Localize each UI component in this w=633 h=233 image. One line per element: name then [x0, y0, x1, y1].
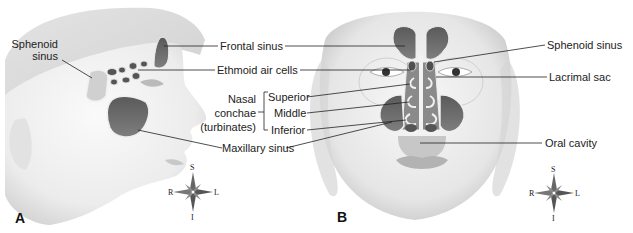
label-nasal-line3: (turbinates) — [200, 121, 256, 133]
label-superior: Superior — [268, 91, 310, 103]
label-maxillary-sinus: Maxillary sinus — [222, 142, 294, 154]
compass-rose-a — [173, 172, 213, 212]
label-frontal-sinus: Frontal sinus — [220, 40, 283, 52]
panel-letter-b: B — [337, 209, 347, 225]
sinus-anatomy-figure: Sphenoid sinus Frontal sinus Ethmoid air… — [0, 0, 633, 233]
label-middle: Middle — [274, 107, 306, 119]
compass-b-left: L — [575, 189, 580, 198]
panel-letter-a: A — [15, 210, 25, 226]
label-nasal-line2: conchae — [200, 107, 256, 119]
compass-a-inferior: I — [191, 213, 194, 222]
label-nasal-line1: Nasal — [200, 93, 256, 105]
compass-b-superior: S — [551, 165, 555, 174]
label-sphenoid-sinus-b: Sphenoid sinus — [547, 39, 622, 51]
illustration — [0, 0, 633, 233]
label-lacrimal-sac: Lacrimal sac — [549, 71, 611, 83]
label-inferior: Inferior — [271, 124, 305, 136]
compass-a-left: L — [214, 188, 219, 197]
compass-b-inferior: I — [552, 214, 555, 223]
compass-a-superior: S — [190, 163, 194, 172]
label-sphenoid-line1: Sphenoid — [8, 38, 58, 50]
label-sphenoid-sinus-a: Sphenoid sinus — [8, 38, 58, 62]
label-ethmoid-air-cells: Ethmoid air cells — [217, 64, 298, 76]
compass-b-right: R — [529, 189, 534, 198]
compass-a-right: R — [168, 188, 173, 197]
panel-b-face — [310, 12, 520, 220]
compass-rose-b — [534, 173, 574, 213]
label-oral-cavity: Oral cavity — [545, 137, 597, 149]
label-nasal-conchae: Nasal conchae (turbinates) — [200, 93, 256, 133]
label-sphenoid-line2: sinus — [8, 50, 58, 62]
